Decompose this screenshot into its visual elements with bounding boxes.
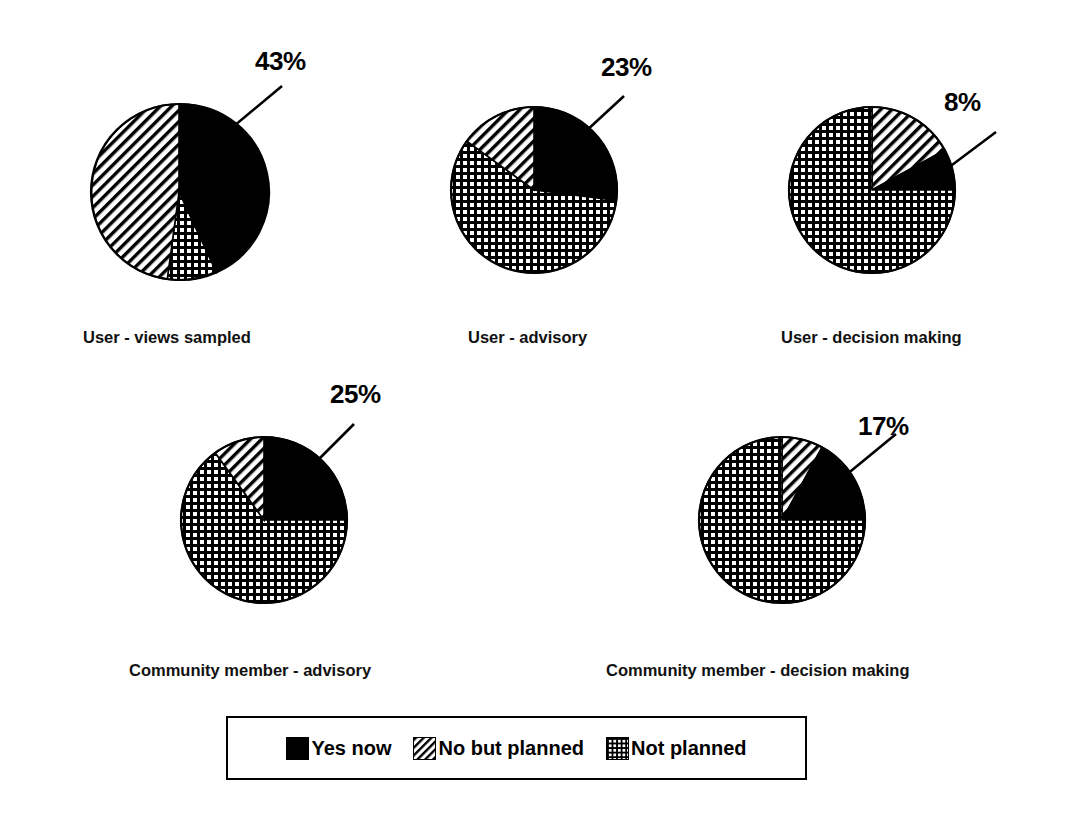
- slice-no-but-planned: [92, 104, 179, 279]
- pie-callout-percent-5: 17%: [858, 411, 909, 442]
- pie-caption-1: User - views sampled: [83, 328, 251, 347]
- pie-caption-3: User - decision making: [781, 328, 962, 347]
- pie-callout-percent-4: 25%: [330, 379, 381, 410]
- legend-label-not-planned: Not planned: [631, 737, 747, 760]
- pie-chart-user-decision-making: [784, 102, 960, 278]
- legend-label-yes-now: Yes now: [311, 737, 391, 760]
- legend-items: Yes now No but planned Not planned: [286, 737, 746, 760]
- legend-entry-not-planned: Not planned: [606, 737, 747, 760]
- legend-label-no-but-planned: No but planned: [438, 737, 584, 760]
- pie-caption-5: Community member - decision making: [606, 661, 909, 680]
- pie-callout-percent-3: 8%: [944, 87, 981, 118]
- pie-caption-2: User - advisory: [468, 328, 587, 347]
- pie-chart-user-advisory: [446, 102, 622, 278]
- pie-caption-4: Community member - advisory: [129, 661, 371, 680]
- legend-swatch-no-but-planned-icon: [413, 737, 436, 760]
- pie-chart-figure: 43% User - views sampled 23% User - advi…: [0, 0, 1075, 818]
- pie-chart-community-member-decision-making: [694, 432, 870, 608]
- grid-pattern-icon: [607, 738, 628, 759]
- legend-swatch-not-planned-icon: [606, 737, 629, 760]
- pie-chart-user-views-sampled: [86, 99, 272, 285]
- hatch-pattern-icon: [414, 738, 435, 759]
- legend: Yes now No but planned Not planned: [226, 716, 807, 780]
- pie-chart-community-member-advisory: [176, 432, 352, 608]
- legend-entry-no-but-planned: No but planned: [413, 737, 584, 760]
- pie-callout-percent-2: 23%: [601, 52, 652, 83]
- legend-entry-yes-now: Yes now: [286, 737, 391, 760]
- pie-callout-percent-1: 43%: [255, 46, 306, 77]
- legend-swatch-yes-now-icon: [286, 737, 309, 760]
